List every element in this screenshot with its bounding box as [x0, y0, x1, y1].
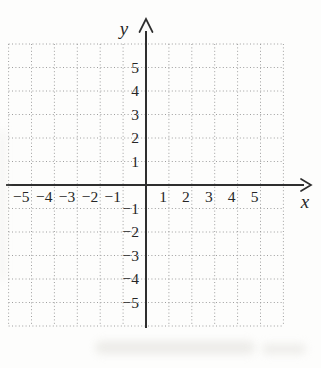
y-tick-label: 3: [131, 106, 139, 123]
y-tick-label: 2: [131, 129, 139, 146]
x-tick-label: 1: [159, 188, 167, 205]
x-tick-label: −1: [105, 188, 122, 205]
y-tick-label: 4: [131, 82, 139, 99]
y-axis-label: y: [118, 18, 129, 39]
x-tick-label: 3: [205, 188, 213, 205]
graph-page: −5−4−3−2−11234554321−1−2−3−4−5xy: [0, 0, 321, 368]
x-axis-label: x: [300, 191, 310, 212]
x-tick-label: 4: [228, 188, 236, 205]
x-tick-label: −5: [13, 188, 30, 205]
coordinate-plane: −5−4−3−2−11234554321−1−2−3−4−5xy: [0, 0, 321, 368]
x-tick-label: 2: [182, 188, 190, 205]
y-tick-label: −2: [123, 223, 140, 240]
x-tick-label: −2: [82, 188, 99, 205]
x-tick-label: −3: [59, 188, 76, 205]
y-tick-label: −5: [123, 294, 140, 311]
y-tick-label: −3: [123, 247, 140, 264]
y-tick-label: 1: [131, 153, 139, 170]
x-tick-label: 5: [251, 188, 259, 205]
y-axis-arrow-icon: [140, 19, 153, 32]
y-tick-label: −4: [123, 270, 140, 287]
y-tick-label: 5: [131, 59, 139, 76]
x-tick-label: −4: [36, 188, 53, 205]
y-tick-label: −1: [123, 200, 140, 217]
